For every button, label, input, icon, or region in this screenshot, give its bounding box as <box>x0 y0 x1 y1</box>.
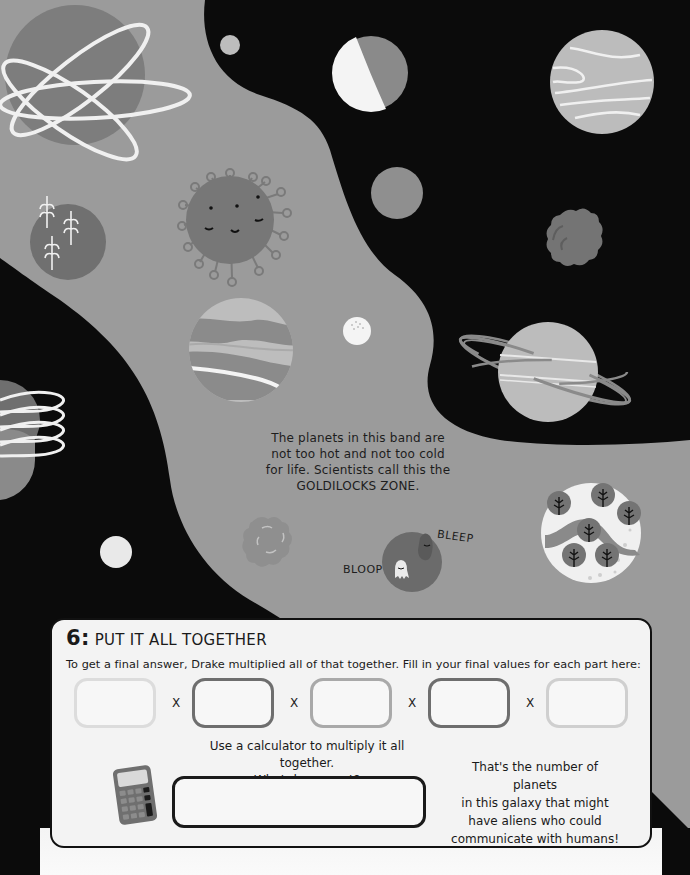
value-input-box-5[interactable] <box>546 678 628 728</box>
multiply-sign: X <box>290 696 298 710</box>
value-input-box-2[interactable] <box>192 678 274 728</box>
caption-line: not too hot and not too cold <box>258 446 458 462</box>
result-note-line: in this galaxy that might <box>450 794 620 812</box>
creatures-planet-icon <box>382 532 442 592</box>
section-number: 6: <box>66 626 90 650</box>
result-explanation: That's the number of planets in this gal… <box>450 758 620 848</box>
value-input-box-3[interactable] <box>310 678 392 728</box>
caption-line: for life. Scientists call this the <box>258 462 458 478</box>
speckled-moon-icon <box>343 317 371 345</box>
bumpy-planet-icon <box>547 208 603 266</box>
multiply-sign: X <box>526 696 534 710</box>
multiply-sign: X <box>172 696 180 710</box>
multiply-sign: X <box>408 696 416 710</box>
put-it-all-together-panel: 6: PUT IT ALL TOGETHER To get a final an… <box>50 618 652 848</box>
section-title: 6: PUT IT ALL TOGETHER <box>66 626 267 650</box>
goldilocks-zone-caption: The planets in this band are not too hot… <box>258 430 458 494</box>
caption-line: The planets in this band are <box>258 430 458 446</box>
result-note-line: have aliens who could <box>450 812 620 830</box>
result-note-line: communicate with humans! <box>450 830 620 848</box>
section-title-text: PUT IT ALL TOGETHER <box>95 631 267 649</box>
value-input-box-1[interactable] <box>74 678 156 728</box>
striped-planet-icon <box>550 30 654 134</box>
final-answer-box[interactable] <box>172 776 426 828</box>
forest-planet-icon <box>541 483 641 583</box>
result-note-line: That's the number of planets <box>450 758 620 794</box>
calculator-icon <box>110 763 160 827</box>
calculator-prompt-line: Use a calculator to multiply it all toge… <box>182 738 432 772</box>
section-instruction: To get a final answer, Drake multiplied … <box>66 658 641 671</box>
value-input-box-4[interactable] <box>428 678 510 728</box>
bloop-speech-label: BLOOP <box>343 563 383 576</box>
caption-line: GOLDILOCKS ZONE. <box>258 478 458 494</box>
